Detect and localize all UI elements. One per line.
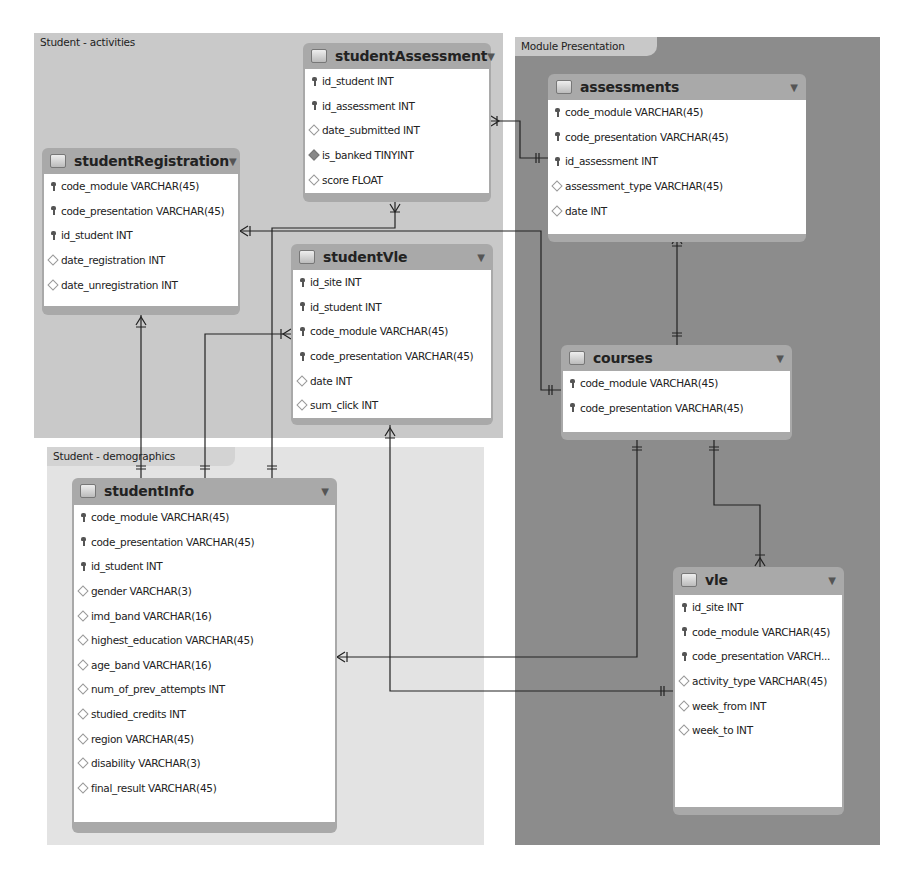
column-row[interactable]: id_site INT — [675, 595, 842, 620]
column-row[interactable]: date_registration INT — [44, 248, 238, 273]
column-row[interactable]: code_module VARCHAR(45) — [675, 620, 842, 645]
column-label: code_module VARCHAR(45) — [61, 180, 199, 192]
column-row[interactable]: id_assessment INT — [548, 149, 806, 174]
column-row[interactable]: code_module VARCHAR(45) — [293, 319, 491, 344]
table-header[interactable]: studentInfo ▼ — [72, 478, 337, 504]
column-label: id_student INT — [322, 75, 393, 87]
collapse-toggle-icon[interactable]: ▼ — [828, 575, 836, 586]
table-header[interactable]: studentRegistration ▼ — [42, 148, 240, 174]
column-row[interactable]: date INT — [548, 198, 806, 223]
column-label: code_presentation VARCH... — [692, 650, 830, 662]
column-label: id_site INT — [310, 276, 361, 288]
column-row[interactable]: num_of_prev_attempts INT — [74, 677, 335, 702]
column-row[interactable]: id_assessment INT — [305, 94, 489, 119]
column-row[interactable]: week_from INT — [675, 693, 842, 718]
table-assessments[interactable]: assessments ▼ code_module VARCHAR(45)cod… — [548, 74, 806, 242]
column-row[interactable]: studied_credits INT — [74, 702, 335, 727]
collapse-toggle-icon[interactable]: ▼ — [229, 156, 237, 167]
table-courses[interactable]: courses ▼ code_module VARCHAR(45)code_pr… — [561, 345, 792, 440]
diamond-icon — [679, 702, 689, 710]
column-label: activity_type VARCHAR(45) — [692, 675, 827, 687]
column-list: id_site INTid_student INTcode_module VAR… — [293, 270, 491, 418]
column-row[interactable]: is_banked TINYINT — [305, 143, 489, 168]
column-row[interactable]: assessment_type VARCHAR(45) — [548, 174, 806, 199]
column-row[interactable]: id_student INT — [44, 223, 238, 248]
column-row[interactable]: code_presentation VARCHAR(45) — [74, 530, 335, 555]
key-icon — [309, 77, 319, 86]
collapse-toggle-icon[interactable]: ▼ — [790, 82, 798, 93]
column-row[interactable]: id_student INT — [74, 554, 335, 579]
key-icon — [78, 513, 88, 522]
column-row[interactable]: id_student INT — [293, 295, 491, 320]
column-row[interactable]: id_site INT — [293, 270, 491, 295]
column-row[interactable]: final_result VARCHAR(45) — [74, 776, 335, 801]
diamond-icon — [309, 176, 319, 184]
table-vle[interactable]: vle ▼ id_site INTcode_module VARCHAR(45)… — [673, 567, 844, 815]
collapse-toggle-icon[interactable]: ▼ — [477, 252, 485, 263]
diamond-icon — [78, 587, 88, 595]
column-list: id_site INTcode_module VARCHAR(45)code_p… — [675, 595, 842, 807]
key-icon — [297, 327, 307, 336]
collapse-toggle-icon[interactable]: ▼ — [487, 51, 495, 62]
column-row[interactable]: code_presentation VARCHAR(45) — [563, 396, 790, 421]
column-row[interactable]: code_module VARCHAR(45) — [74, 505, 335, 530]
table-title: courses — [593, 350, 776, 366]
table-header[interactable]: assessments ▼ — [548, 74, 806, 100]
diamond-icon — [297, 377, 307, 385]
column-label: score FLOAT — [322, 174, 383, 186]
column-label: age_band VARCHAR(16) — [91, 659, 211, 671]
column-label: highest_education VARCHAR(45) — [91, 634, 254, 646]
table-header[interactable]: studentAssessment ▼ — [303, 43, 491, 69]
column-row[interactable]: score FLOAT — [305, 167, 489, 192]
table-header[interactable]: vle ▼ — [673, 567, 844, 593]
table-icon — [311, 49, 327, 63]
column-row[interactable]: id_student INT — [305, 69, 489, 94]
diamond-icon — [679, 677, 689, 685]
column-list: code_module VARCHAR(45)code_presentation… — [74, 505, 335, 822]
column-row[interactable]: date_unregistration INT — [44, 272, 238, 297]
table-studentvle[interactable]: studentVle ▼ id_site INTid_student INTco… — [291, 244, 493, 425]
table-studentassessment[interactable]: studentAssessment ▼ id_student INTid_ass… — [303, 43, 491, 202]
rel-studentvle-studentinfo — [205, 334, 291, 478]
diamond-icon — [309, 126, 319, 134]
column-label: is_banked TINYINT — [322, 149, 414, 161]
column-row[interactable]: disability VARCHAR(3) — [74, 751, 335, 776]
column-label: disability VARCHAR(3) — [91, 757, 200, 769]
column-row[interactable]: code_module VARCHAR(45) — [548, 100, 806, 125]
column-row[interactable]: week_to INT — [675, 718, 842, 743]
column-row[interactable]: code_module VARCHAR(45) — [563, 371, 790, 396]
column-row[interactable]: code_presentation VARCHAR(45) — [548, 125, 806, 150]
table-studentregistration[interactable]: studentRegistration ▼ code_module VARCHA… — [42, 148, 240, 315]
column-row[interactable]: sum_click INT — [293, 393, 491, 418]
table-header[interactable]: courses ▼ — [561, 345, 792, 371]
table-header[interactable]: studentVle ▼ — [291, 244, 493, 270]
column-row[interactable]: gender VARCHAR(3) — [74, 579, 335, 604]
column-row[interactable]: imd_band VARCHAR(16) — [74, 603, 335, 628]
key-icon — [679, 603, 689, 612]
column-label: region VARCHAR(45) — [91, 733, 194, 745]
column-row[interactable]: date_submitted INT — [305, 118, 489, 143]
column-row[interactable]: code_presentation VARCHAR(45) — [293, 344, 491, 369]
column-label: code_module VARCHAR(45) — [565, 106, 703, 118]
column-label: id_assessment INT — [565, 155, 658, 167]
column-row[interactable]: age_band VARCHAR(16) — [74, 653, 335, 678]
key-icon — [48, 206, 58, 215]
collapse-toggle-icon[interactable]: ▼ — [321, 486, 329, 497]
table-studentinfo[interactable]: studentInfo ▼ code_module VARCHAR(45)cod… — [72, 478, 337, 833]
column-row[interactable]: activity_type VARCHAR(45) — [675, 669, 842, 694]
diamond-icon — [78, 784, 88, 792]
diamond-icon — [552, 207, 562, 215]
column-label: id_student INT — [310, 301, 381, 313]
collapse-toggle-icon[interactable]: ▼ — [776, 353, 784, 364]
rel-courses-studentinfo — [337, 440, 637, 657]
table-title: assessments — [580, 79, 790, 95]
column-row[interactable]: code_presentation VARCH... — [675, 644, 842, 669]
column-row[interactable]: code_presentation VARCHAR(45) — [44, 199, 238, 224]
column-label: code_presentation VARCHAR(45) — [565, 131, 728, 143]
key-icon — [552, 108, 562, 117]
diamond-icon — [78, 661, 88, 669]
column-row[interactable]: highest_education VARCHAR(45) — [74, 628, 335, 653]
column-row[interactable]: region VARCHAR(45) — [74, 726, 335, 751]
column-row[interactable]: code_module VARCHAR(45) — [44, 174, 238, 199]
column-row[interactable]: date INT — [293, 368, 491, 393]
